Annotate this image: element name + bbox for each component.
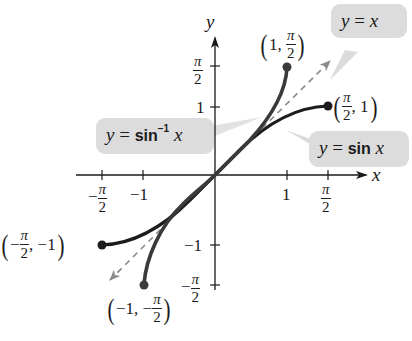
point-sin-left [98,241,107,250]
y-tick-pi-half: π2 [193,54,203,87]
bubble-sin: y = sin x [309,131,409,167]
bubble-arcsin: y = sin−1 x [96,118,214,154]
y-tick-neg-1: −1 [184,237,202,254]
y-tick-neg-pi-half: −π2 [181,272,200,305]
x-tick-pi-half: π2 [321,182,331,215]
point-arcsin-bottom [140,281,149,290]
label-point-arcsin-bottom: (−1, −π2) [106,292,172,325]
point-arcsin-top [283,63,292,72]
bubble-identity: y = x [331,4,407,38]
x-axis-label: x [372,165,380,184]
y-axis-label: y [206,12,214,31]
label-point-sin-left: (−π2, −1) [0,228,66,261]
bubble-pointer-identity [330,50,358,80]
label-point-arcsin-top: (1, π2) [259,28,306,61]
label-point-sin-right: (π2, 1) [332,90,379,123]
graph-canvas [0,0,412,341]
x-tick-neg-pi-half: −π2 [88,182,107,215]
x-tick-neg-1: −1 [130,186,148,203]
y-tick-1: 1 [196,99,205,116]
x-tick-1: 1 [282,186,291,203]
